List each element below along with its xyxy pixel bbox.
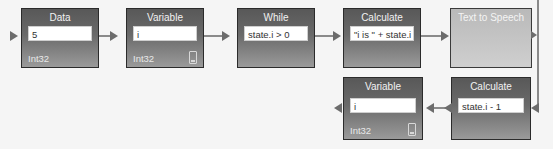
calculate-node[interactable]: Calculate "i is " + state.i	[343, 8, 421, 68]
while-condition-field[interactable]: state.i > 0	[244, 26, 308, 41]
variable-name-field[interactable]: i	[350, 98, 416, 113]
connector	[421, 35, 441, 37]
output-arrow-icon	[334, 103, 342, 113]
arrow-right-icon	[222, 31, 230, 41]
node-type-label: Int32	[133, 53, 154, 64]
node-type-label: Int32	[350, 125, 371, 136]
arrow-right-icon	[441, 31, 449, 41]
node-title: Variable	[344, 81, 422, 93]
device-icon[interactable]	[408, 123, 416, 136]
variable-name-field[interactable]: i	[133, 26, 197, 41]
node-title: Calculate	[344, 12, 420, 24]
variable-node[interactable]: Variable i Int32	[126, 8, 204, 68]
node-title: Calculate	[452, 81, 530, 93]
input-arrow-icon	[10, 31, 18, 41]
connector	[537, 0, 539, 108]
node-title: Text to Speech	[451, 12, 531, 24]
calculate-decrement-node[interactable]: Calculate state.i - 1	[451, 77, 531, 140]
node-title: Data	[22, 12, 98, 24]
node-title: Variable	[127, 12, 203, 24]
text-to-speech-node[interactable]: Text to Speech	[450, 8, 532, 68]
node-title: While	[238, 12, 314, 24]
node-type-label: Int32	[28, 53, 49, 64]
arrow-left-icon	[426, 103, 434, 113]
data-value-field[interactable]: 5	[28, 26, 92, 41]
arrow-left-icon	[531, 103, 539, 113]
calculate-expression-field[interactable]: state.i - 1	[458, 98, 524, 113]
calculate-expression-field[interactable]: "i is " + state.i	[350, 26, 414, 41]
arrow-right-icon	[333, 31, 341, 41]
arrow-left-icon	[444, 103, 452, 113]
data-node[interactable]: Data 5 Int32	[21, 8, 99, 68]
arrow-right-icon	[110, 31, 118, 41]
device-icon[interactable]	[189, 51, 197, 64]
variable-output-node[interactable]: Variable i Int32	[343, 77, 423, 140]
while-node[interactable]: While state.i > 0	[237, 8, 315, 68]
connector	[204, 35, 222, 37]
connector	[315, 35, 333, 37]
